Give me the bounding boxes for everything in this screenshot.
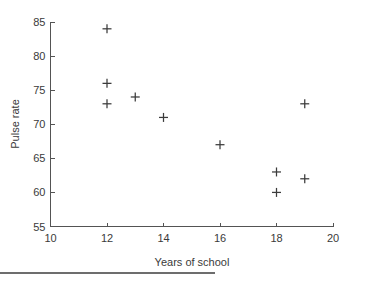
y-tick-label: 80 xyxy=(33,50,45,62)
x-axis-title: Years of school xyxy=(155,256,230,268)
x-tick-label: 14 xyxy=(157,232,169,244)
data-point-marker xyxy=(272,167,281,176)
y-tick-label: 70 xyxy=(33,118,45,130)
y-axis-title: Pulse rate xyxy=(9,99,21,149)
y-tick-label: 65 xyxy=(33,152,45,164)
data-point-marker xyxy=(272,188,281,197)
data-point-marker xyxy=(300,174,309,183)
x-tick-label: 10 xyxy=(44,232,56,244)
data-point-marker xyxy=(103,99,112,108)
x-tick-label: 20 xyxy=(327,232,339,244)
footer-rule xyxy=(0,272,215,274)
data-point-marker xyxy=(103,24,112,33)
x-tick-label: 18 xyxy=(270,232,282,244)
x-tick-label: 16 xyxy=(214,232,226,244)
y-tick-label: 75 xyxy=(33,84,45,96)
y-axis-ticks: 55606570758085 xyxy=(33,16,54,233)
data-point-marker xyxy=(159,113,168,122)
scatter-plot-figure: 55606570758085 101214161820 Years of sch… xyxy=(0,0,365,282)
x-tick-label: 12 xyxy=(101,232,113,244)
data-markers xyxy=(103,24,310,197)
y-tick-label: 85 xyxy=(33,16,45,28)
axes xyxy=(51,22,334,227)
x-axis-ticks: 101214161820 xyxy=(44,223,339,244)
data-point-marker xyxy=(300,99,309,108)
data-point-marker xyxy=(131,92,140,101)
y-tick-label: 60 xyxy=(33,186,45,198)
data-point-marker xyxy=(103,79,112,88)
data-point-marker xyxy=(216,140,225,149)
plot-canvas: 55606570758085 101214161820 Years of sch… xyxy=(0,0,365,282)
